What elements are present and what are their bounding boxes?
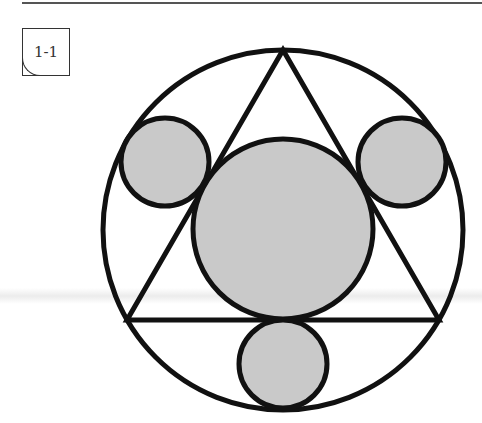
- small-circle-bottom: [239, 320, 327, 408]
- geometry-figure: [0, 0, 482, 423]
- small-circle-right: [358, 118, 446, 206]
- small-circle-left: [121, 118, 209, 206]
- center-circle: [193, 139, 373, 319]
